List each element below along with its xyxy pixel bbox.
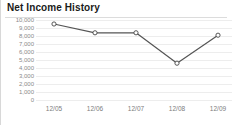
y-axis-tick-label: 2,000 [1,81,34,87]
page-title: Net Income History [7,2,100,13]
x-axis-tick-label: 12/06 [75,105,115,113]
gridline [36,100,232,101]
data-point-marker[interactable] [216,33,220,37]
x-axis-tick-label: 12/07 [116,105,156,113]
y-axis-tick-label: 10,000 [1,17,34,23]
data-point-marker[interactable] [134,31,138,35]
y-axis-tick-label: 0 [1,97,34,103]
y-axis-tick-label: 4,000 [1,65,34,71]
data-point-marker[interactable] [52,22,56,26]
data-line [54,24,218,63]
x-axis-tick-label: 12/05 [34,105,74,113]
net-income-history-chart-widget: Net Income History 10,0009,0008,0007,000… [0,0,235,125]
x-axis-tick-label: 12/09 [198,105,235,113]
title-divider [5,17,227,18]
x-axis-tick-label: 12/08 [157,105,197,113]
y-axis-tick-label: 3,000 [1,73,34,79]
line-chart-svg [36,20,232,100]
y-axis: 10,0009,0008,0007,0006,0005,0004,0003,00… [1,20,34,100]
data-point-marker[interactable] [175,61,179,65]
chart-grid-area [36,20,232,100]
data-point-marker[interactable] [93,31,97,35]
chart-plot-wrapper: 10,0009,0008,0007,0006,0005,0004,0003,00… [1,20,235,125]
y-axis-tick-label: 1,000 [1,89,34,95]
y-axis-tick-label: 9,000 [1,25,34,31]
y-axis-tick-label: 8,000 [1,33,34,39]
y-axis-tick-label: 5,000 [1,57,34,63]
x-axis: 12/0512/0612/0712/0812/09 [36,105,232,119]
y-axis-tick-label: 7,000 [1,41,34,47]
y-axis-tick-label: 6,000 [1,49,34,55]
